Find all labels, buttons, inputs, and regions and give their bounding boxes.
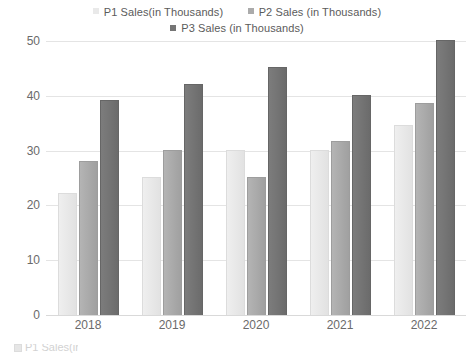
- y-tick-label: 10: [0, 253, 40, 267]
- x-tick-label: 2021: [298, 318, 382, 332]
- bar-2021-series-3[interactable]: [352, 95, 371, 315]
- legend-swatch-p3-icon: [170, 25, 176, 31]
- y-tick-label: 0: [0, 308, 40, 322]
- legend-row-2: P3 Sales (in Thousands): [0, 20, 474, 37]
- y-tick-label: 20: [0, 198, 40, 212]
- legend-swatch-p1-icon: [93, 8, 99, 14]
- x-tick-label: 2020: [214, 318, 298, 332]
- bar-group-2022: [382, 41, 466, 315]
- bar-group-2019: [130, 41, 214, 315]
- legend-label-p2: P2 Sales (in Thousands): [259, 5, 382, 20]
- bar-group-2020: [214, 41, 298, 315]
- clipped-legend-text: P1 Sales(in: [25, 344, 78, 353]
- legend-swatch-p2-icon: [248, 8, 254, 14]
- y-axis: 01020304050: [0, 41, 40, 315]
- x-tick-label: 2019: [130, 318, 214, 332]
- bar-2020-series-3[interactable]: [268, 67, 287, 315]
- x-tick-label: 2022: [382, 318, 466, 332]
- clipped-legend-remnant: P1 Sales(in: [14, 344, 78, 353]
- chart-legend: P1 Sales(in Thousands) P2 Sales (in Thou…: [0, 3, 474, 36]
- legend-item-p3-sales[interactable]: P3 Sales (in Thousands): [170, 21, 304, 37]
- bar-group-2018: [46, 41, 130, 315]
- y-tick-label: 40: [0, 89, 40, 103]
- legend-row-1: P1 Sales(in Thousands) P2 Sales (in Thou…: [0, 3, 474, 20]
- bar-2022-series-1[interactable]: [394, 125, 413, 315]
- x-axis-labels: 20182019202020212022: [46, 318, 466, 332]
- bar-2019-series-1[interactable]: [142, 177, 161, 315]
- x-tick-label: 2018: [46, 318, 130, 332]
- bar-2018-series-3[interactable]: [100, 100, 119, 315]
- bar-2021-series-2[interactable]: [331, 141, 350, 315]
- y-tick-label: 30: [0, 144, 40, 158]
- bar-2022-series-2[interactable]: [415, 103, 434, 315]
- legend-item-p1-sales[interactable]: P1 Sales(in Thousands): [93, 4, 223, 20]
- bar-2022-series-3[interactable]: [436, 40, 455, 315]
- bar-group-2021: [298, 41, 382, 315]
- bar-groups: [46, 41, 466, 315]
- x-axis-line: [46, 315, 466, 316]
- bar-2018-series-1[interactable]: [58, 193, 77, 315]
- bar-2019-series-2[interactable]: [163, 150, 182, 315]
- bar-2021-series-1[interactable]: [310, 150, 329, 315]
- bar-2018-series-2[interactable]: [79, 161, 98, 315]
- legend-item-p2-sales[interactable]: P2 Sales (in Thousands): [248, 4, 382, 20]
- legend-label-p3: P3 Sales (in Thousands): [181, 21, 304, 36]
- bar-2020-series-2[interactable]: [247, 177, 266, 315]
- bar-chart: P1 Sales(in Thousands) P2 Sales (in Thou…: [0, 0, 474, 357]
- legend-label-p1: P1 Sales(in Thousands): [104, 5, 223, 20]
- y-tick-label: 50: [0, 34, 40, 48]
- bar-2019-series-3[interactable]: [184, 84, 203, 315]
- clipped-legend-swatch-icon: [14, 344, 22, 352]
- bar-2020-series-1[interactable]: [226, 150, 245, 315]
